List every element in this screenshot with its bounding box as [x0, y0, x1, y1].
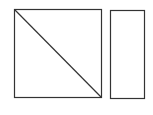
tall-rectangle [111, 11, 145, 99]
square-diagonal [15, 10, 102, 98]
diagram-canvas [0, 0, 153, 115]
